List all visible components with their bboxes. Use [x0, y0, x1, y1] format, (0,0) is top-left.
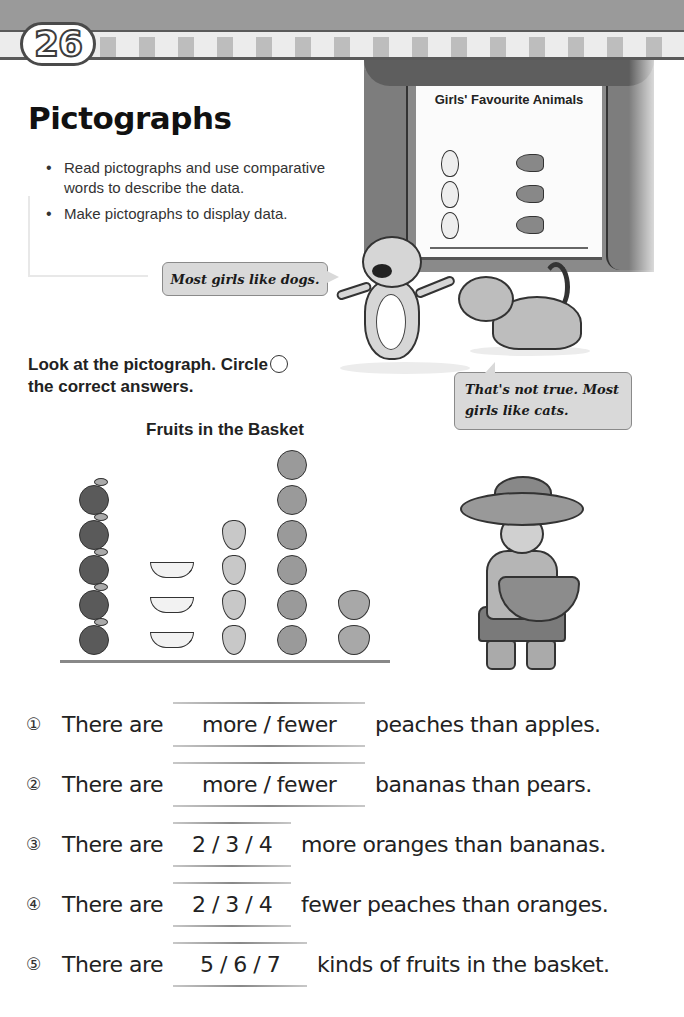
header-square	[373, 37, 389, 57]
question-2: ② There are more / fewer bananas than pe…	[26, 754, 676, 814]
banana-column	[144, 555, 200, 655]
dog-speech-bubble: Most girls like dogs.	[162, 262, 328, 296]
question-suffix: kinds of fruits in the basket.	[317, 952, 610, 977]
cat-speech-bubble: That's not true. Most girls like cats.	[454, 372, 632, 430]
header-square	[646, 37, 662, 57]
fish-icon	[516, 216, 544, 234]
question-suffix: more oranges than bananas.	[301, 832, 606, 857]
answer-choices[interactable]: more / fewer	[171, 712, 367, 737]
question-suffix: bananas than pears.	[375, 772, 592, 797]
question-number: ⑤	[26, 954, 62, 974]
question-suffix: fewer peaches than oranges.	[301, 892, 608, 917]
question-prefix: There are	[62, 772, 163, 797]
question-5: ⑤ There are 5 / 6 / 7 kinds of fruits in…	[26, 934, 676, 994]
header-band	[0, 0, 684, 30]
header-square	[178, 37, 194, 57]
rabbit-column	[436, 150, 464, 239]
dog-arm	[414, 274, 457, 299]
pear-icon	[222, 555, 246, 585]
answer-choices[interactable]: 2 / 3 / 4	[171, 832, 293, 857]
header-square	[451, 37, 467, 57]
pear-icon	[222, 590, 246, 620]
header-square	[334, 37, 350, 57]
banana-icon	[150, 562, 194, 578]
orange-icon	[277, 625, 307, 655]
fade-edge	[629, 60, 664, 272]
rabbit-icon	[441, 212, 459, 239]
question-number: ②	[26, 774, 62, 794]
instruction-line-1: Look at the pictograph. Circle	[28, 355, 268, 374]
rabbit-icon	[441, 181, 459, 208]
apple-icon	[79, 485, 109, 515]
instruction-text: Look at the pictograph. Circle the corre…	[28, 354, 288, 398]
header-square	[139, 37, 155, 57]
question-suffix: peaches than apples.	[375, 712, 601, 737]
pear-column	[214, 520, 254, 655]
objectives-list: Read pictographs and use comparative wor…	[46, 158, 366, 230]
header-square	[295, 37, 311, 57]
question-prefix: There are	[62, 712, 163, 737]
answer-choices[interactable]: more / fewer	[171, 772, 367, 797]
dog-nose	[372, 264, 392, 278]
header-square	[412, 37, 428, 57]
header-square	[256, 37, 272, 57]
curtain-valance	[364, 60, 654, 86]
header-square	[100, 37, 116, 57]
question-prefix: There are	[62, 832, 163, 857]
chart-baseline	[60, 660, 390, 663]
question-prefix: There are	[62, 892, 163, 917]
objective-item: Read pictographs and use comparative wor…	[46, 158, 366, 198]
answer-choices[interactable]: 2 / 3 / 4	[171, 892, 293, 917]
question-number: ④	[26, 894, 62, 914]
fish-column	[516, 150, 544, 239]
cat-illustration	[456, 262, 586, 358]
chart-title: Fruits in the Basket	[60, 420, 390, 440]
orange-icon	[277, 485, 307, 515]
questions-list: ① There are more / fewer peaches than ap…	[26, 694, 676, 994]
question-number: ①	[26, 714, 62, 734]
header-square	[607, 37, 623, 57]
answer-choices[interactable]: 5 / 6 / 7	[171, 952, 309, 977]
question-4: ④ There are 2 / 3 / 4 fewer peaches than…	[26, 874, 676, 934]
header-square	[568, 37, 584, 57]
apple-icon	[79, 590, 109, 620]
frame-decoration	[28, 196, 30, 276]
dog-belly	[376, 294, 406, 350]
header-square	[490, 37, 506, 57]
unit-number: 26	[34, 26, 82, 62]
girl-with-basket-illustration	[460, 476, 586, 672]
peach-icon	[338, 625, 370, 655]
apple-icon	[79, 625, 109, 655]
banana-icon	[150, 597, 194, 613]
orange-icon	[277, 450, 307, 480]
header-square	[217, 37, 233, 57]
fish-icon	[516, 185, 544, 203]
peach-column	[334, 590, 374, 655]
header-square	[529, 37, 545, 57]
animal-chart-title: Girls' Favourite Animals	[416, 92, 602, 107]
hat-overlay	[494, 476, 552, 510]
fish-icon	[516, 154, 544, 172]
dog-head	[362, 236, 422, 288]
pear-icon	[222, 625, 246, 655]
banana-icon	[150, 632, 194, 648]
frame-decoration	[28, 275, 148, 277]
pear-icon	[222, 520, 246, 550]
orange-icon	[277, 590, 307, 620]
orange-icon	[277, 555, 307, 585]
apple-icon	[79, 555, 109, 585]
peach-icon	[338, 590, 370, 620]
boot-icon	[526, 640, 556, 670]
page-title: Pictographs	[28, 100, 231, 136]
orange-column	[272, 450, 312, 655]
objective-item: Make pictographs to display data.	[46, 204, 366, 224]
orange-icon	[277, 520, 307, 550]
question-number: ③	[26, 834, 62, 854]
apple-column	[74, 485, 114, 655]
circle-icon	[270, 355, 288, 373]
instruction-line-2: the correct answers.	[28, 377, 193, 396]
dog-illustration	[336, 236, 456, 372]
question-prefix: There are	[62, 952, 163, 977]
header-strip	[0, 30, 684, 60]
question-1: ① There are more / fewer peaches than ap…	[26, 694, 676, 754]
